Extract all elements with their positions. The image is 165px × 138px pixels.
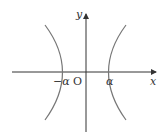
right-vertex-label: α [106,76,113,87]
origin-label: O [73,76,82,87]
y-axis-label: y [76,9,82,20]
hyperbola-diagram [0,0,165,138]
left-vertex-label: −α [53,76,70,87]
x-axis-label: x [150,76,156,87]
